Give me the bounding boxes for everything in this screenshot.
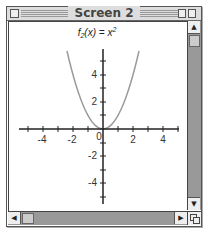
horizontal-scrollbar[interactable]: ◀ ▶	[8, 211, 187, 225]
graph-area: f2(x) = x2 -4	[8, 21, 187, 211]
svg-text:-4: -4	[88, 177, 97, 188]
svg-text:2: 2	[130, 134, 136, 145]
collapse-box-icon[interactable]	[188, 9, 196, 18]
svg-text:0: 0	[96, 131, 102, 142]
svg-text:-4: -4	[38, 134, 47, 145]
title-bar[interactable]: Screen 2	[7, 7, 201, 21]
function-label: f2(x) = x2	[78, 26, 117, 39]
graph-window: Screen 2 f2(x) = x2	[6, 6, 202, 227]
svg-text:4: 4	[160, 134, 166, 145]
graph-plot: f2(x) = x2 -4	[9, 22, 187, 211]
vertical-scroll-thumb[interactable]	[189, 35, 200, 47]
svg-text:2: 2	[91, 96, 97, 107]
scroll-down-icon[interactable]: ▼	[188, 197, 200, 210]
window-title-wrap: Screen 2	[7, 6, 201, 20]
svg-text:4: 4	[91, 69, 97, 80]
vertical-scrollbar[interactable]: ▲ ▼	[187, 21, 201, 210]
zoom-box-icon[interactable]	[178, 9, 186, 18]
horizontal-scroll-thumb[interactable]	[22, 213, 34, 224]
scroll-left-icon[interactable]: ◀	[8, 212, 21, 224]
scroll-right-icon[interactable]: ▶	[174, 212, 187, 224]
scroll-up-icon[interactable]: ▲	[188, 21, 200, 34]
resize-grow-box-icon[interactable]	[187, 211, 201, 225]
svg-text:-2: -2	[88, 150, 97, 161]
svg-text:-2: -2	[68, 134, 77, 145]
window-title: Screen 2	[68, 6, 139, 20]
